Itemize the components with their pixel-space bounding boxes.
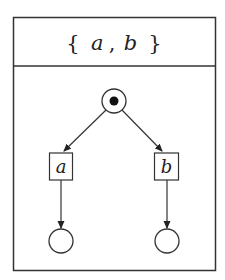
node-a-label: a <box>56 156 67 177</box>
title-comma: , <box>109 31 116 55</box>
end-state-b-icon <box>155 229 179 253</box>
node-b: b <box>155 153 179 180</box>
end-state-a-icon <box>49 229 73 253</box>
title-open-brace: { <box>66 31 79 55</box>
outer-frame <box>14 18 216 271</box>
title-element-b: b <box>124 31 137 55</box>
node-b-label: b <box>161 156 173 177</box>
title-set-notation: { a , b } <box>66 31 161 55</box>
title-element-a: a <box>91 31 104 55</box>
set-diagram: { a , b } a b <box>0 0 225 280</box>
node-a: a <box>50 153 73 180</box>
title-close-brace: } <box>148 31 161 55</box>
initial-state-icon <box>102 89 126 113</box>
